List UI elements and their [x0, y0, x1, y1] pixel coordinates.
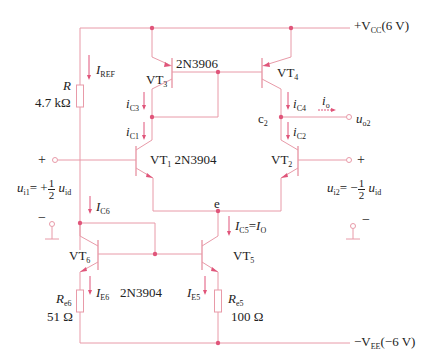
ic3-label: iC3: [126, 97, 139, 113]
resistor-r: [77, 85, 84, 107]
re6-name: Re6: [56, 292, 72, 308]
r-name: R: [63, 79, 71, 92]
input-right-minus-terminal: [351, 224, 356, 229]
uo2-terminal: [347, 115, 352, 120]
re6-value: 51 Ω: [47, 310, 73, 323]
resistor-re5: [215, 290, 222, 312]
ie5-label: IE5: [187, 286, 200, 302]
ic4-label: iC4: [293, 97, 306, 113]
vt3-emitter-arrow-icon: [164, 62, 171, 67]
vt3-label: VT3: [146, 73, 167, 89]
io-label: io: [322, 94, 330, 110]
vt6-emitter-arrow-icon: [80, 267, 87, 272]
vt4-label: VT4: [277, 66, 298, 82]
ui1-formula: ui1= +12 uid: [17, 178, 71, 201]
re5-value: 100 Ω: [231, 310, 263, 323]
iref-label: IREF: [96, 63, 115, 79]
input-left-minus-terminal: [50, 222, 55, 227]
node-c2: [279, 115, 283, 119]
vt2-label: VT2: [271, 153, 292, 169]
vt6-label: VT6: [69, 249, 90, 265]
ui2-formula: ui2= −12 uid: [327, 178, 381, 201]
input-left-minus: −: [38, 211, 46, 225]
input-right-plus: +: [357, 153, 365, 167]
vee-label: −VEE(−6 V): [354, 335, 415, 351]
ic1-label: iC1: [126, 125, 139, 141]
input-right-minus: −: [362, 213, 370, 227]
ie6-label: IE6: [96, 286, 109, 302]
vt2-emitter-arrow-icon: [281, 173, 288, 178]
c2-label: c2: [258, 112, 268, 128]
input-left-plus: +: [38, 153, 46, 167]
ic6-label: IC6: [96, 200, 110, 216]
vt1-emitter-arrow-icon: [146, 173, 153, 178]
vcc-label: +VCC(6 V): [354, 19, 409, 35]
input-right-terminal: [347, 158, 352, 163]
vt3-model: 2N3906: [176, 57, 218, 70]
vt4-emitter-arrow-icon: [263, 62, 270, 67]
uo2-label: uo2: [356, 112, 371, 128]
ic2-label: iC2: [293, 125, 306, 141]
e-label: e: [214, 197, 220, 210]
ic5-label: IC5=IO: [235, 219, 266, 235]
vt1-label: VT1 2N3904: [150, 153, 216, 169]
vt6-model: 2N3904: [120, 286, 162, 299]
re5-name: Re5: [228, 292, 244, 308]
vt5-label: VT5: [233, 249, 254, 265]
r-value: 4.7 kΩ: [35, 96, 71, 109]
vt5-emitter-arrow-icon: [211, 267, 218, 272]
input-left-terminal: [53, 158, 58, 163]
resistor-re6: [77, 290, 84, 312]
